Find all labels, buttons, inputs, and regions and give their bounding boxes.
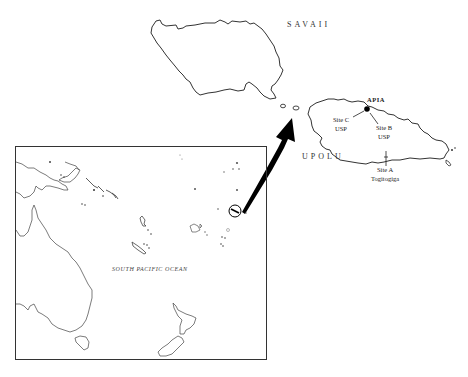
islet (181, 158, 182, 159)
islet (221, 236, 223, 238)
islet (236, 162, 238, 164)
islet (446, 160, 451, 166)
islet (227, 229, 230, 232)
apia-label: APIA (367, 96, 385, 103)
islet (60, 174, 62, 176)
site-a-place: Togitogiga (371, 174, 399, 183)
savaii-label: SAVAII (287, 20, 330, 29)
site-c-pointer (353, 111, 364, 117)
manono-island (293, 106, 299, 110)
islet (220, 243, 222, 245)
islet (150, 233, 152, 235)
savaii-island-outline (151, 20, 283, 99)
islet (232, 168, 234, 170)
site-a-label: Site A Togitogiga (371, 165, 399, 183)
site-c-name: Site C (333, 115, 349, 124)
islet (147, 229, 149, 231)
site-b-name: Site B (376, 123, 392, 132)
locator-arrow (242, 118, 295, 214)
apia-marker (364, 106, 370, 112)
islet (224, 237, 226, 239)
islet (102, 195, 104, 197)
south-pacific-ocean-label: SOUTH PACIFIC OCEAN (112, 266, 188, 272)
islet (454, 147, 456, 149)
samoa-inset-glyph (231, 209, 239, 213)
map-canvas (0, 0, 468, 377)
new-guinea-outline (16, 162, 68, 198)
islet (236, 189, 238, 191)
islet (84, 204, 86, 206)
islet (143, 243, 145, 245)
tasmania-outline (75, 336, 89, 350)
islet (451, 149, 453, 151)
inset-map-frame (16, 147, 267, 360)
islet (81, 203, 83, 205)
site-b-place: USP (376, 132, 392, 141)
islet (63, 176, 65, 178)
islet (204, 231, 205, 232)
apolima-island (281, 104, 286, 108)
islet (206, 234, 207, 235)
islet (222, 245, 224, 247)
islet (146, 244, 148, 246)
islet (223, 171, 224, 172)
new-zealand-south-outline (158, 336, 184, 356)
new-britain-outline (59, 168, 80, 182)
new-zealand-north-outline (173, 303, 196, 334)
upolu-label: UPOLU (302, 152, 344, 161)
islet (49, 161, 51, 163)
islet (93, 189, 95, 191)
site-b-label: Site B USP (376, 123, 392, 141)
islet (217, 208, 219, 210)
islet (148, 247, 150, 249)
site-c-label: Site C USP (333, 115, 349, 133)
islet (245, 212, 246, 213)
solomon-islands (86, 178, 118, 199)
islet (238, 168, 240, 170)
fiji-outline (190, 224, 202, 232)
islet (194, 188, 196, 190)
australia-outline (16, 205, 92, 332)
islet (179, 154, 180, 155)
site-c-place: USP (333, 124, 349, 133)
site-a-name: Site A (371, 165, 399, 174)
vanuatu (140, 216, 146, 226)
